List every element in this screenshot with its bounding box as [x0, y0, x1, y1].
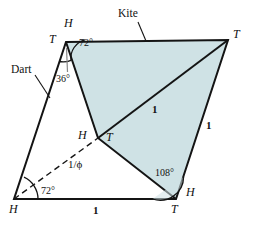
vertex-label-bottom-right-H: H — [186, 186, 195, 198]
angle-arc-bottom-left-72 — [24, 177, 38, 199]
dart-label: Dart — [11, 64, 31, 76]
vertex-label-bottom-left-H: H — [9, 203, 18, 215]
angle-label-bottom-left-72: 72° — [41, 186, 55, 196]
vertex-label-bottom-right-T: T — [171, 203, 178, 215]
kite-label: Kite — [118, 8, 138, 20]
length-label-bottom-edge: 1 — [93, 205, 99, 216]
angle-label-bottom-right-108: 108° — [155, 168, 174, 178]
vertex-label-top-right-T: T — [233, 28, 240, 40]
leader-line-36 — [67, 48, 68, 72]
length-label-inverse-phi: 1/ϕ — [68, 159, 82, 170]
length-label-diagonal: 1 — [152, 104, 158, 115]
leader-line-dart — [35, 75, 50, 98]
length-label-right-edge: 1 — [206, 120, 212, 131]
vertex-label-top-left-T: T — [49, 33, 56, 45]
leader-line-kite — [138, 22, 146, 41]
diagram-canvas — [0, 0, 253, 226]
vertex-label-center-H: H — [78, 129, 87, 141]
angle-label-top-72: 72° — [79, 38, 93, 48]
dashed-phi-line — [14, 138, 98, 199]
vertex-label-center-T: T — [106, 131, 113, 143]
angle-label-top-36: 36° — [56, 74, 70, 84]
vertex-label-top-left-H: H — [64, 17, 73, 29]
penrose-tiling-diagram: Kite Dart H T T H T H T H 72° 36° 72° 10… — [0, 0, 253, 226]
